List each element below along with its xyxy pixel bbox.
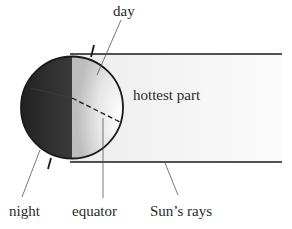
earth-sun-diagram — [0, 0, 292, 229]
equator-label: equator — [72, 204, 117, 219]
night-leader-line — [22, 150, 40, 197]
hottest-part-label: hottest part — [133, 88, 200, 103]
suns-rays-label: Sun’s rays — [150, 204, 212, 219]
night-label: night — [9, 204, 40, 219]
day-label: day — [113, 4, 135, 19]
night-side — [15, 50, 72, 170]
axis-tick-south — [48, 158, 51, 169]
suns-rays-leader-line — [165, 163, 178, 195]
